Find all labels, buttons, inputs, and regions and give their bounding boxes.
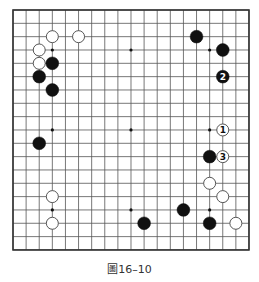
star-point [129, 48, 132, 51]
star-point [208, 128, 211, 131]
move-number: 2 [220, 72, 226, 82]
white-stone [46, 217, 58, 229]
black-stone [33, 137, 46, 150]
white-stone [230, 217, 242, 229]
star-point [51, 48, 54, 51]
star-point [51, 128, 54, 131]
black-stone [177, 204, 190, 217]
go-board: 213 [0, 0, 259, 258]
star-point [129, 128, 132, 131]
black-stone [46, 84, 59, 97]
black-stone-move-2: 2 [216, 70, 229, 83]
black-stone [203, 217, 216, 230]
black-stone [46, 57, 59, 70]
move-number: 3 [220, 152, 226, 162]
black-stone [216, 44, 229, 57]
white-stone-move-1: 1 [217, 124, 229, 136]
black-stone [190, 30, 203, 43]
white-stone-move-3: 3 [217, 151, 229, 163]
black-stone [138, 217, 151, 230]
white-stone [204, 177, 216, 189]
black-stone [33, 70, 46, 83]
star-point [208, 48, 211, 51]
white-stone [46, 191, 58, 203]
star-point [129, 208, 132, 211]
move-number: 1 [220, 125, 226, 135]
white-stone [33, 44, 45, 56]
star-point [208, 208, 211, 211]
white-stone [46, 31, 58, 43]
figure-caption: 圖16–10 [0, 260, 259, 276]
star-point [51, 208, 54, 211]
black-stone [203, 150, 216, 163]
white-stone [217, 191, 229, 203]
white-stone [33, 57, 45, 69]
white-stone [73, 31, 85, 43]
